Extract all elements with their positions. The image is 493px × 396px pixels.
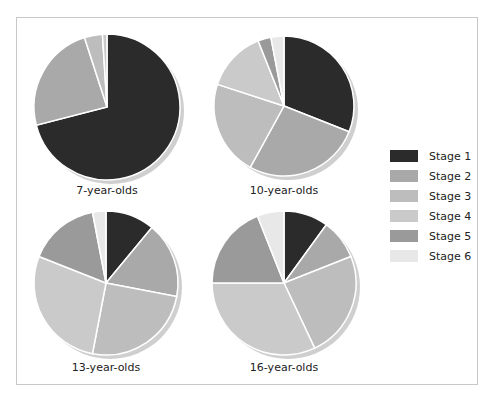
pie-label-16: 16-year-olds xyxy=(250,361,319,374)
legend-item-stage-3: Stage 3 xyxy=(390,186,471,206)
pie-label-7: 7-year-olds xyxy=(76,184,138,197)
legend-swatch xyxy=(390,250,418,262)
legend-label: Stage 5 xyxy=(429,230,471,243)
legend-swatch xyxy=(390,190,418,202)
legend-item-stage-2: Stage 2 xyxy=(390,166,471,186)
legend-swatch xyxy=(390,210,418,222)
pie-slice-stage-3 xyxy=(93,283,177,355)
legend-label: Stage 4 xyxy=(429,210,471,223)
legend-label: Stage 1 xyxy=(429,150,471,163)
legend-item-stage-6: Stage 6 xyxy=(390,246,471,266)
pie-10-year-olds xyxy=(214,36,358,180)
pie-label-13: 13-year-olds xyxy=(72,361,141,374)
legend-label: Stage 3 xyxy=(429,190,471,203)
pie-13-year-olds xyxy=(34,211,182,359)
legend-item-stage-5: Stage 5 xyxy=(390,226,471,246)
legend-label: Stage 6 xyxy=(429,250,471,263)
legend: Stage 1 Stage 2 Stage 3 Stage 4 Stage 5 … xyxy=(390,146,471,266)
legend-swatch xyxy=(390,230,418,242)
legend-label: Stage 2 xyxy=(429,170,471,183)
legend-swatch xyxy=(390,170,418,182)
legend-item-stage-4: Stage 4 xyxy=(390,206,471,226)
pie-16-year-olds xyxy=(212,211,360,359)
legend-swatch xyxy=(390,150,418,162)
pie-label-10: 10-year-olds xyxy=(250,184,319,197)
pie-7-year-olds xyxy=(34,34,184,184)
legend-item-stage-1: Stage 1 xyxy=(390,146,471,166)
